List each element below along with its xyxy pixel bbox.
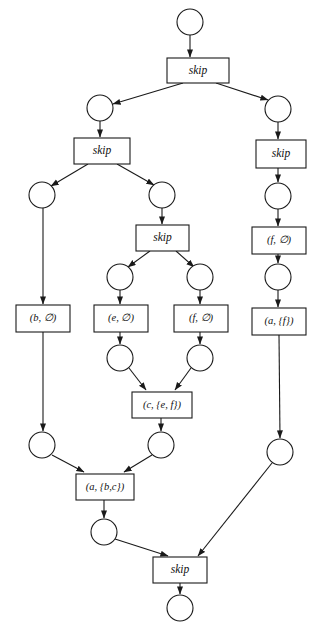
place-p15[interactable] [167, 595, 193, 621]
arc-t_skip_left-to-p4 [117, 164, 154, 185]
transition-label-t_f_right: (f, ∅) [267, 234, 292, 246]
arc-p10-to-t_c_ef [175, 368, 191, 390]
arc-t_skip_top-to-p2 [216, 83, 268, 100]
place-p14[interactable] [91, 519, 117, 545]
place-p7[interactable] [187, 264, 213, 290]
transition-t_b[interactable]: (b, ∅) [16, 305, 70, 332]
arc-t_a_f-to-p13 [279, 335, 280, 438]
transition-label-t_skip_left: skip [93, 144, 112, 157]
transition-t_f_mid[interactable]: (f, ∅) [174, 305, 228, 332]
transition-t_f_right[interactable]: (f, ∅) [252, 227, 306, 254]
place-p1[interactable] [87, 95, 113, 121]
petri-net-canvas: skipskipskipskip(b, ∅)(e, ∅)(f, ∅)(f, ∅)… [0, 0, 319, 639]
arc-t_skip_left-to-p3 [51, 164, 88, 186]
place-p9[interactable] [107, 345, 133, 371]
transition-label-t_f_mid: (f, ∅) [189, 312, 214, 324]
transition-label-t_e: (e, ∅) [108, 312, 134, 324]
transitions-layer: skipskipskipskip(b, ∅)(e, ∅)(f, ∅)(f, ∅)… [16, 58, 306, 583]
arc-t_skip_mid-to-p6 [128, 251, 150, 267]
place-p10[interactable] [187, 345, 213, 371]
transition-t_c_ef[interactable]: (c, {e, f}) [132, 392, 192, 418]
place-p5[interactable] [265, 183, 291, 209]
transition-t_skip_right[interactable]: skip [256, 140, 306, 168]
transition-t_a_f[interactable]: (a, {f}) [252, 308, 306, 335]
transition-label-t_b: (b, ∅) [30, 312, 57, 324]
place-p13[interactable] [267, 439, 293, 465]
transition-label-t_a_bc: (a, {b,c}) [86, 481, 125, 493]
place-p12[interactable] [148, 432, 174, 458]
place-p0[interactable] [177, 9, 203, 35]
transition-t_skip_mid[interactable]: skip [136, 225, 189, 251]
transition-label-t_skip_top: skip [189, 64, 208, 77]
transition-label-t_skip_right: skip [272, 147, 291, 160]
place-p11[interactable] [29, 432, 55, 458]
arcs-layer [43, 35, 280, 594]
transition-t_skip_left[interactable]: skip [74, 138, 130, 164]
transition-t_skip_top[interactable]: skip [167, 58, 229, 83]
arc-p14-to-t_skip_bottom [115, 539, 168, 556]
arc-p11-to-t_a_bc [52, 455, 84, 472]
transition-label-t_skip_bottom: skip [171, 563, 190, 576]
arc-p13-to-t_skip_bottom [198, 463, 272, 556]
transition-t_e[interactable]: (e, ∅) [94, 305, 148, 332]
arc-t_skip_mid-to-p7 [176, 251, 194, 267]
transition-label-t_a_f: (a, {f}) [265, 315, 294, 327]
arc-p12-to-t_a_bc [124, 455, 152, 472]
place-p6[interactable] [107, 264, 133, 290]
transition-label-t_skip_mid: skip [153, 231, 172, 244]
place-p8[interactable] [265, 264, 291, 290]
transition-label-t_c_ef: (c, {e, f}) [143, 399, 182, 411]
place-p4[interactable] [149, 182, 175, 208]
petri-net-graph: skipskipskipskip(b, ∅)(e, ∅)(f, ∅)(f, ∅)… [0, 0, 319, 639]
place-p3[interactable] [29, 182, 55, 208]
arc-t_skip_top-to-p1 [113, 83, 183, 104]
place-p2[interactable] [265, 96, 291, 122]
arc-p9-to-t_c_ef [129, 368, 146, 390]
transition-t_a_bc[interactable]: (a, {b,c}) [76, 474, 134, 500]
transition-t_skip_bottom[interactable]: skip [153, 557, 207, 583]
